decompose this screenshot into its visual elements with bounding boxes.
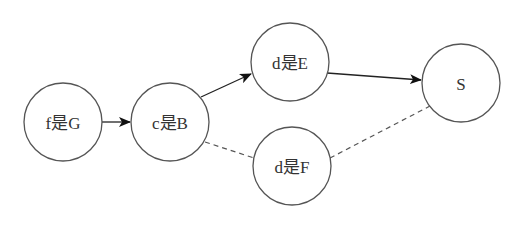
edge-cB-to-dE [201,74,251,97]
node-label: d是F [275,158,310,177]
node-d-is-F: d是F [253,127,331,205]
node-S: S [422,44,500,122]
node-label: S [456,75,465,94]
edge-dF-to-S-dashed [330,106,430,158]
node-label: f是G [46,114,81,133]
node-label: c是B [152,114,188,133]
node-f-is-G: f是G [24,83,102,161]
node-c-is-B: c是B [131,83,209,161]
edge-dE-to-S [327,73,421,80]
edge-cB-to-dF-dashed [205,142,254,158]
directed-graph: f是G c是B d是E d是F S [0,0,518,244]
node-label: d是E [272,54,308,73]
node-d-is-E: d是E [251,23,329,101]
